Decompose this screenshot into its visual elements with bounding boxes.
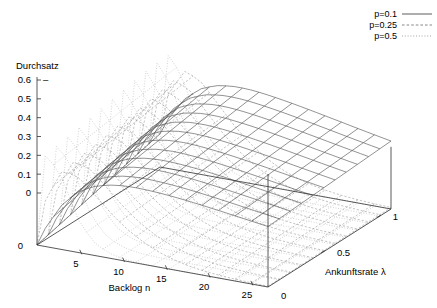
y-tick-label: 1	[393, 211, 398, 222]
z-tick-label: 0	[26, 187, 31, 198]
y-tick-label: 0	[281, 290, 286, 301]
x-tick-label: 5	[73, 258, 78, 269]
x-axis-title: Backlog n	[109, 282, 151, 293]
z-axis-title: Durchsatz	[16, 60, 59, 71]
x-tick-label: 20	[199, 281, 210, 292]
x-tick-label: 15	[156, 273, 167, 284]
z-tick-label: 0.3	[18, 131, 31, 142]
y-tick-label: 0.5	[337, 247, 350, 258]
z-axis-top-dash: –	[43, 74, 49, 85]
x-axis-line	[37, 245, 268, 287]
surface-plot-canvas: 00.10.20.30.40.50.6–Durchsatz0510152025B…	[0, 0, 437, 308]
legend-label: p=0.1	[374, 9, 397, 19]
z-tick-label: 0.4	[18, 112, 31, 123]
floor-back-right-edge	[160, 167, 391, 209]
x-tick-mark	[165, 265, 167, 270]
legend-entry[interactable]: p=0.5	[374, 31, 432, 41]
y-axis-title: Ankunftsrate λ	[325, 266, 386, 277]
legend-label: p=0.5	[374, 31, 397, 41]
legend-entry[interactable]: p=0.1	[374, 9, 432, 19]
legend-label: p=0.25	[369, 20, 397, 30]
surface-p-0-1	[37, 86, 391, 245]
z-tick-label: 0.1	[18, 169, 31, 180]
x-tick-label: 25	[242, 289, 253, 300]
legend-entry[interactable]: p=0.25	[369, 20, 432, 30]
x-tick-label: 10	[113, 266, 124, 277]
z-origin-label: 0	[18, 240, 23, 251]
x-tick-mark	[208, 273, 210, 278]
legend-layer: p=0.1p=0.25p=0.5	[369, 9, 432, 41]
axis-labels-layer: 00.10.20.30.40.50.6–Durchsatz0510152025B…	[16, 60, 398, 301]
x-tick-mark	[80, 250, 82, 255]
x-tick-mark	[123, 258, 125, 263]
z-tick-label: 0.5	[18, 93, 31, 104]
z-tick-label: 0.2	[18, 150, 31, 161]
z-tick-label: 0.6	[18, 74, 31, 85]
chart-figure: 00.10.20.30.40.50.6–Durchsatz0510152025B…	[0, 0, 437, 308]
